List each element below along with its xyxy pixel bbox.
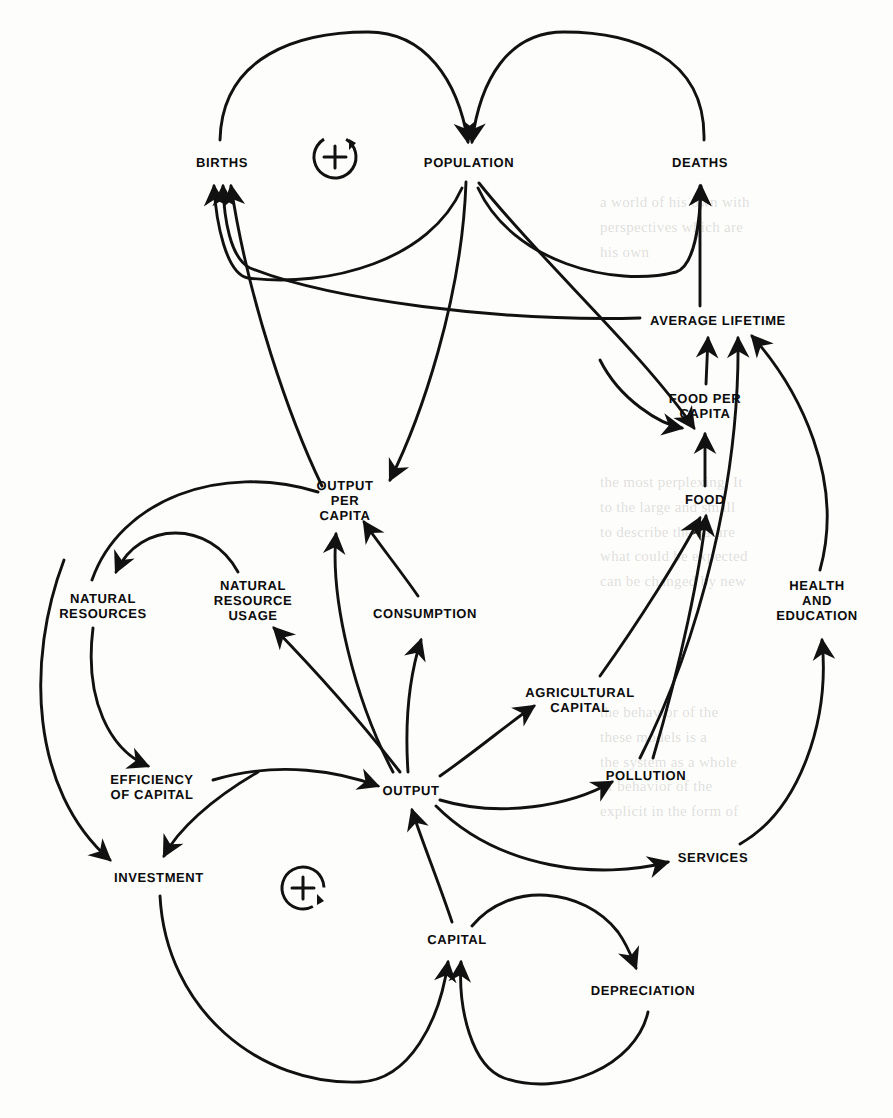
node-deaths[interactable]: DEATHS	[672, 155, 728, 170]
edge-capital-to-output	[412, 810, 452, 922]
edge-output-to-output-per-capita	[335, 534, 393, 772]
edge-output-per-capita-to-births	[231, 186, 322, 486]
node-investment[interactable]: INVESTMENT	[114, 870, 204, 885]
edge-food-per-capita-to-average-lifetime	[706, 338, 708, 384]
diagram-page: a world of his own with perspectives whi…	[0, 0, 893, 1118]
plus-icon	[292, 877, 314, 899]
edge-population-to-deaths	[478, 186, 701, 277]
node-services[interactable]: SERVICES	[678, 850, 748, 865]
node-food-per-capita[interactable]: FOOD PER CAPITA	[669, 391, 742, 421]
edge-output-to-consumption	[407, 640, 421, 772]
node-food[interactable]: FOOD	[685, 492, 725, 507]
node-births[interactable]: BIRTHS	[196, 155, 248, 170]
edge-health-education-to-average-lifetime	[752, 336, 827, 570]
loop-arrowhead	[317, 894, 324, 905]
edge-natural-resource-usage-to-natural-resources	[116, 533, 238, 572]
edge-natural-resources-to-efficiency-of-capital	[91, 628, 148, 766]
node-capital[interactable]: CAPITAL	[427, 932, 487, 947]
plus-icon	[324, 146, 346, 168]
edge-output-to-pollution	[440, 782, 612, 809]
edge-population-to-output-per-capita	[390, 182, 466, 480]
node-natural-resource-usage[interactable]: NATURAL RESOURCE USAGE	[214, 578, 292, 623]
node-consumption[interactable]: CONSUMPTION	[373, 606, 477, 621]
node-output-per-capita[interactable]: OUTPUT PER CAPITA	[316, 478, 373, 523]
node-efficiency-of-capital[interactable]: EFFICIENCY OF CAPITAL	[110, 772, 193, 802]
loop-positive-population	[306, 128, 364, 186]
node-output[interactable]: OUTPUT	[382, 783, 439, 798]
node-agricultural-capital[interactable]: AGRICULTURAL CAPITAL	[525, 685, 635, 715]
edge-output-per-capita-outer-arc	[92, 482, 318, 580]
edge-deaths-to-population	[472, 32, 704, 142]
edge-average-lifetime-to-births	[223, 186, 640, 318]
loop-positive-capital	[275, 860, 332, 917]
edge-capital-to-depreciation	[472, 895, 636, 968]
edge-layer	[41, 32, 827, 1084]
edge-consumption-to-output-per-capita	[364, 522, 418, 596]
node-pollution[interactable]: POLLUTION	[606, 768, 687, 783]
edge-investment-to-capital	[160, 896, 448, 1082]
edge-output-to-services	[436, 806, 668, 870]
node-average-lifetime[interactable]: AVERAGE LIFETIME	[650, 313, 786, 328]
node-depreciation[interactable]: DEPRECIATION	[591, 983, 695, 998]
edge-services-to-health-education	[740, 640, 823, 844]
edge-births-to-population	[220, 32, 468, 142]
node-natural-resources[interactable]: NATURAL RESOURCES	[59, 591, 147, 621]
node-population[interactable]: POPULATION	[424, 155, 514, 170]
node-health-and-education[interactable]: HEALTH AND EDUCATION	[776, 578, 858, 623]
edge-depreciation-to-capital	[461, 962, 648, 1084]
edge-output-to-agricultural-capital	[440, 706, 534, 776]
edge-population-to-births	[214, 186, 462, 280]
edge-population-to-food-per-capita	[479, 183, 694, 428]
